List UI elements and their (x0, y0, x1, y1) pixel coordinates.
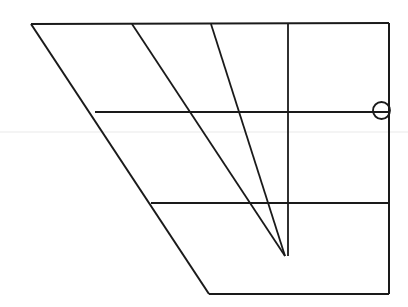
diagonal-three (211, 24, 285, 256)
drawing-canvas (0, 0, 408, 307)
diagonal-two (132, 24, 285, 256)
line-drawing-svg (0, 0, 408, 307)
left-slanted-edge (31, 24, 209, 294)
top-edge (31, 23, 389, 24)
right-edge-circle-node (373, 102, 390, 119)
